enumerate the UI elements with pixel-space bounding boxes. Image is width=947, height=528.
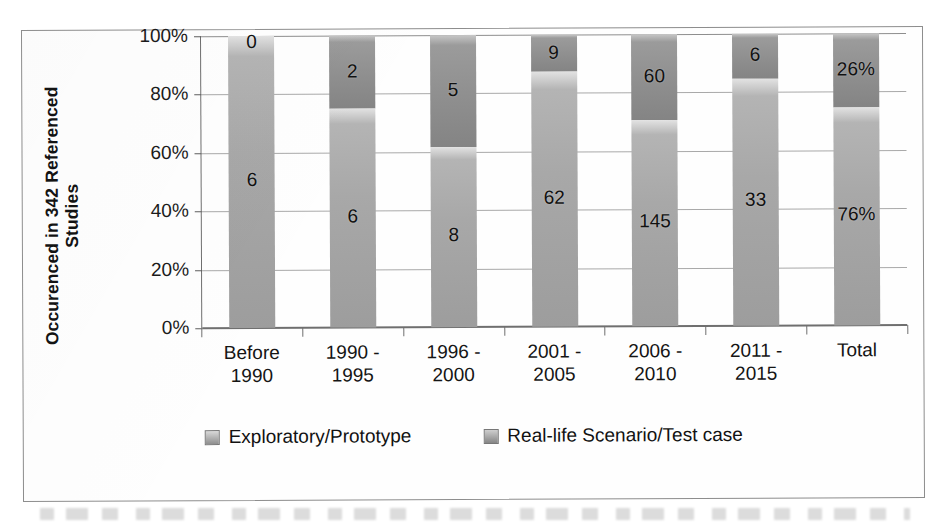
x-axis-label-6: Total bbox=[806, 339, 907, 385]
x-axis-label-3: 2001 - 2005 bbox=[504, 340, 605, 386]
legend-item-1[interactable]: Real-life Scenario/Test case bbox=[483, 424, 743, 447]
stacked-bar[interactable]: 60 bbox=[228, 36, 275, 328]
bar-slot-3: 962 bbox=[503, 34, 605, 326]
bar-label-reallife: 6 bbox=[750, 44, 761, 66]
x-axis-label-2: 1996 - 2000 bbox=[403, 341, 504, 387]
bar-segment-exploratory[interactable]: 8 bbox=[430, 147, 477, 327]
x-tick-mark-3 bbox=[504, 327, 505, 336]
figure-frame: Occurenced in 342 Referenced Studies 0%2… bbox=[21, 26, 925, 502]
x-axis-label-1: 1990 - 1995 bbox=[302, 341, 403, 387]
y-tick-mark-40 bbox=[195, 211, 202, 212]
legend-item-0[interactable]: Exploratory/Prototype bbox=[205, 425, 412, 448]
y-axis-tick-0: 0% bbox=[162, 317, 190, 339]
bar-segment-reallife[interactable]: 60 bbox=[631, 34, 677, 120]
y-tick-mark-100 bbox=[194, 36, 201, 37]
bar-slot-1: 26 bbox=[302, 35, 404, 327]
legend-label-0: Exploratory/Prototype bbox=[229, 425, 412, 448]
x-axis-category-labels: Before 19901990 - 19951996 - 20002001 - … bbox=[201, 339, 907, 388]
y-axis-tick-80: 80% bbox=[150, 83, 188, 105]
bar-segment-exploratory[interactable]: 33 bbox=[732, 79, 779, 326]
bar-label-exploratory: 145 bbox=[639, 210, 671, 232]
bar-segment-reallife[interactable]: 5 bbox=[430, 35, 476, 148]
bar-segment-exploratory[interactable]: 62 bbox=[531, 72, 578, 327]
bar-slot-2: 58 bbox=[402, 35, 504, 327]
stacked-bar[interactable]: 633 bbox=[732, 34, 779, 326]
caption-ghost-text bbox=[40, 508, 910, 520]
bar-label-exploratory: 8 bbox=[448, 224, 459, 246]
bar-label-reallife: 5 bbox=[448, 79, 459, 101]
bar-segment-reallife[interactable]: 26% bbox=[833, 33, 879, 108]
x-tick-mark-4 bbox=[605, 326, 606, 335]
y-axis-tick-40: 40% bbox=[151, 200, 189, 222]
bar-slot-6: 26%76% bbox=[805, 33, 907, 325]
bar-label-reallife: 0 bbox=[246, 31, 257, 53]
legend-label-1: Real-life Scenario/Test case bbox=[507, 424, 743, 447]
x-tick-mark-7 bbox=[907, 325, 908, 334]
bar-label-reallife: 2 bbox=[347, 60, 358, 82]
y-axis-title: Occurenced in 342 Referenced Studies bbox=[26, 81, 97, 351]
bar-slot-4: 60145 bbox=[604, 34, 706, 326]
bar-label-exploratory: 76% bbox=[837, 203, 875, 225]
y-axis-tick-60: 60% bbox=[150, 142, 188, 164]
x-axis-label-5: 2011 - 2015 bbox=[706, 340, 807, 386]
legend-swatch-reallife-icon bbox=[483, 428, 498, 443]
bar-segment-exploratory[interactable]: 76% bbox=[833, 108, 880, 326]
x-tick-mark-0 bbox=[201, 328, 202, 337]
x-tick-mark-2 bbox=[403, 327, 404, 336]
stacked-bar[interactable]: 962 bbox=[531, 35, 578, 327]
bar-label-reallife: 9 bbox=[548, 41, 559, 63]
chart-legend: Exploratory/PrototypeReal-life Scenario/… bbox=[24, 423, 924, 449]
bar-label-reallife: 26% bbox=[837, 58, 875, 80]
bar-segment-reallife[interactable]: 9 bbox=[531, 35, 577, 72]
x-axis-label-4: 2006 - 2010 bbox=[605, 340, 706, 386]
bar-label-exploratory: 62 bbox=[544, 186, 565, 208]
stacked-bar[interactable]: 26 bbox=[329, 35, 376, 327]
stacked-bar[interactable]: 26%76% bbox=[833, 33, 880, 325]
y-tick-mark-80 bbox=[194, 95, 201, 96]
stacked-bar[interactable]: 60145 bbox=[631, 34, 678, 326]
bar-label-exploratory: 6 bbox=[348, 205, 359, 227]
y-tick-mark-60 bbox=[195, 153, 202, 154]
bar-label-exploratory: 6 bbox=[247, 169, 258, 191]
bar-segment-exploratory[interactable]: 6 bbox=[329, 108, 376, 327]
y-axis-title-line-2: Studies bbox=[62, 184, 82, 248]
bar-segment-reallife[interactable]: 6 bbox=[732, 34, 778, 79]
bar-segment-exploratory[interactable]: 60 bbox=[228, 36, 275, 328]
bar-group: 6026589626014563326%76% bbox=[201, 33, 907, 328]
x-tick-mark-5 bbox=[706, 326, 707, 335]
y-axis-tick-20: 20% bbox=[151, 258, 189, 280]
x-tick-mark-6 bbox=[806, 326, 807, 335]
legend-swatch-exploratory-icon bbox=[205, 430, 220, 445]
plot-wrapper: 0%20%40%60%80%100% 6026589626014563326%7… bbox=[126, 33, 917, 366]
chart-canvas: Occurenced in 342 Referenced Studies 0%2… bbox=[22, 27, 924, 501]
y-axis-title-line-1: Occurenced in 342 Referenced bbox=[41, 86, 62, 345]
bar-segment-reallife[interactable]: 2 bbox=[329, 35, 375, 108]
y-axis-tick-labels: 0%20%40%60%80%100% bbox=[126, 36, 195, 328]
x-tick-mark-1 bbox=[302, 328, 303, 337]
y-axis-tick-100: 100% bbox=[139, 25, 188, 47]
bar-slot-5: 633 bbox=[705, 34, 807, 326]
x-axis-label-0: Before 1990 bbox=[201, 342, 302, 388]
bar-segment-exploratory[interactable]: 145 bbox=[632, 120, 679, 327]
bar-label-exploratory: 33 bbox=[745, 189, 766, 211]
plot-area: 6026589626014563326%76% bbox=[200, 33, 907, 328]
bar-label-reallife: 60 bbox=[644, 65, 665, 87]
bar-slot-0: 60 bbox=[201, 36, 303, 328]
x-axis-tick-marks bbox=[201, 325, 907, 338]
stacked-bar[interactable]: 58 bbox=[430, 35, 477, 327]
y-tick-mark-20 bbox=[195, 270, 202, 271]
